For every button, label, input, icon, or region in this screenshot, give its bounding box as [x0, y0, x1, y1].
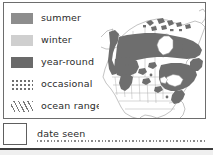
legend-item-ocean-range[interactable]: ocean range — [8, 95, 99, 117]
map-legend: summer winter year-round occasional ocea… — [4, 3, 99, 119]
legend-label: year-round — [41, 57, 94, 67]
date-seen-section: date seen — [3, 123, 206, 147]
legend-item-occasional[interactable]: occasional — [8, 73, 99, 95]
date-seen-checkbox[interactable] — [3, 123, 27, 145]
bottom-margin-band — [0, 150, 213, 155]
legend-item-winter[interactable]: winter — [8, 29, 99, 51]
date-seen-label: date seen — [37, 128, 85, 139]
legend-item-summer[interactable]: summer — [8, 7, 99, 29]
legend-label: summer — [41, 13, 81, 23]
summer-swatch-icon — [11, 13, 33, 24]
legend-item-year-round[interactable]: year-round — [8, 51, 99, 73]
map-svg — [99, 3, 206, 119]
legend-label: occasional — [41, 79, 92, 89]
figure-root: summer winter year-round occasional ocea… — [0, 0, 213, 155]
occasional-dotted-swatch-icon — [11, 79, 33, 90]
north-america-range-map — [99, 3, 206, 119]
legend-map-panel: summer winter year-round occasional ocea… — [3, 2, 206, 119]
legend-label: winter — [41, 35, 72, 45]
date-seen-write-line[interactable] — [37, 140, 206, 142]
winter-swatch-icon — [11, 35, 33, 46]
legend-label: ocean range — [41, 101, 102, 111]
ocean-range-hatch-swatch-icon — [11, 101, 33, 112]
year-round-swatch-icon — [11, 57, 33, 68]
